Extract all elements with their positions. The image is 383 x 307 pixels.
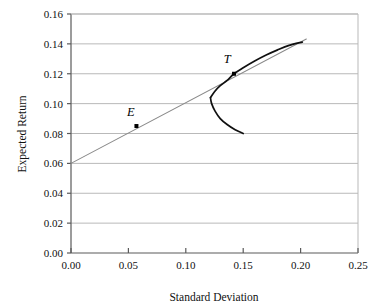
x-axis-title: Standard Deviation [169, 291, 258, 303]
x-tick-label: 0.20 [291, 259, 311, 271]
y-axis-title: Expected Return [16, 95, 29, 172]
x-tick-label: 0.25 [348, 259, 368, 271]
y-tick-label: 0.08 [44, 128, 64, 140]
efficient-frontier-chart: 0.000.020.040.060.080.100.120.140.16 0.0… [0, 0, 383, 307]
y-tick-label: 0.14 [44, 38, 64, 50]
x-tick-label: 0.05 [119, 259, 139, 271]
x-tick-label: 0.15 [234, 259, 254, 271]
y-tick-labels: 0.000.020.040.060.080.100.120.140.16 [44, 8, 64, 259]
x-tick-label: 0.00 [61, 259, 81, 271]
x-tick-label: 0.10 [176, 259, 196, 271]
data-point-T [232, 72, 236, 76]
y-tick-label: 0.12 [44, 68, 63, 80]
annotation-E: E [126, 105, 135, 119]
y-tick-label: 0.06 [44, 157, 64, 169]
y-tick-label: 0.10 [44, 98, 64, 110]
y-tick-label: 0.16 [44, 8, 64, 20]
chart-container: 0.000.020.040.060.080.100.120.140.16 0.0… [0, 0, 383, 307]
data-point-E [134, 124, 138, 128]
y-tick-label: 0.04 [44, 187, 64, 199]
y-tick-label: 0.00 [44, 247, 64, 259]
y-tick-label: 0.02 [44, 217, 63, 229]
annotation-T: T [224, 52, 232, 66]
